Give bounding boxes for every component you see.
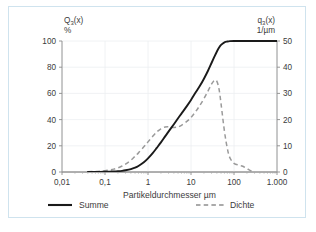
y-tick-label-right: 20 xyxy=(283,116,293,125)
legend-label-summe: Summe xyxy=(79,200,109,210)
legend-label-dichte: Dichte xyxy=(230,200,255,210)
y-axis-left-unit: % xyxy=(64,26,71,35)
x-tick-label: 0,1 xyxy=(99,178,111,187)
y-tick-label-right: 0 xyxy=(283,168,288,177)
x-axis: 0,010,11101001.000 xyxy=(54,172,288,187)
chart-legend: SummeDichte xyxy=(48,200,255,210)
x-tick-label: 1 xyxy=(146,178,151,187)
y-tick-label-right: 10 xyxy=(283,142,293,151)
y-tick-label-left: 40 xyxy=(47,116,57,125)
y-tick-label-left: 80 xyxy=(47,63,57,72)
y-axis-left-name: Q3(x) xyxy=(64,16,84,26)
y-tick-label-right: 40 xyxy=(283,63,293,72)
y-tick-label-right: 50 xyxy=(283,37,293,46)
particle-size-distribution-chart: 020406080100010203040500,010,11101001.00… xyxy=(0,0,316,232)
y-axis-left: 020406080100 xyxy=(42,37,62,177)
y-axis-left-title: Q3(x)% xyxy=(64,16,84,35)
y-axis-right-name: q3(x) xyxy=(258,16,276,26)
y-axis-right-unit: 1/µm xyxy=(257,26,276,35)
y-tick-label-right: 30 xyxy=(283,89,293,98)
chart-figure: 020406080100010203040500,010,11101001.00… xyxy=(0,0,316,232)
x-axis-title: Partikeldurchmesser µm xyxy=(123,190,216,200)
y-axis-right-title: q3(x)1/µm xyxy=(257,16,276,35)
y-axis-right: 01020304050 xyxy=(277,37,293,177)
x-tick-label: 0,01 xyxy=(54,178,70,187)
x-tick-label: 100 xyxy=(227,178,241,187)
y-tick-label-left: 0 xyxy=(51,168,56,177)
y-tick-label-left: 60 xyxy=(47,89,57,98)
x-tick-label: 1.000 xyxy=(267,178,288,187)
y-tick-label-left: 100 xyxy=(42,37,56,46)
plot-background xyxy=(62,41,277,172)
y-tick-label-left: 20 xyxy=(47,142,57,151)
x-tick-label: 10 xyxy=(186,178,196,187)
